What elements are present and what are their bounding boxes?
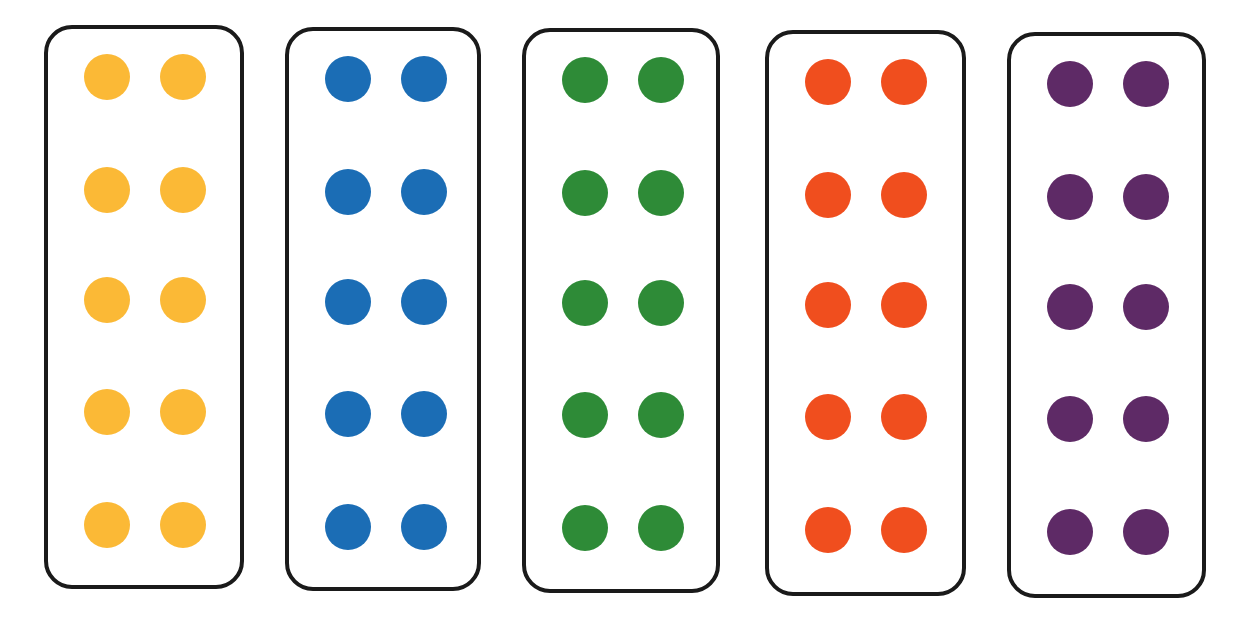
dot-green: [562, 57, 608, 103]
dot-purple: [1047, 174, 1093, 220]
dot-blue: [325, 56, 371, 102]
dot-purple: [1123, 284, 1169, 330]
dot-blue: [325, 391, 371, 437]
dot-yellow: [160, 389, 206, 435]
dot-orange: [805, 172, 851, 218]
dot-green: [638, 392, 684, 438]
dot-orange: [881, 282, 927, 328]
dot-card-purple: [1007, 32, 1206, 598]
dot-green: [562, 280, 608, 326]
dot-purple: [1047, 509, 1093, 555]
dot-orange: [881, 59, 927, 105]
dot-yellow: [160, 167, 206, 213]
dot-orange: [881, 394, 927, 440]
dot-yellow: [160, 277, 206, 323]
dot-green: [562, 392, 608, 438]
dot-purple: [1123, 396, 1169, 442]
dot-yellow: [160, 54, 206, 100]
dot-purple: [1047, 396, 1093, 442]
dot-purple: [1047, 61, 1093, 107]
dot-orange: [805, 394, 851, 440]
dot-card-yellow: [44, 25, 244, 589]
dot-yellow: [84, 502, 130, 548]
dot-blue: [325, 169, 371, 215]
dot-yellow: [84, 277, 130, 323]
dot-blue: [401, 56, 447, 102]
dot-blue: [401, 279, 447, 325]
dot-blue: [401, 391, 447, 437]
dot-purple: [1123, 61, 1169, 107]
dot-yellow: [160, 502, 206, 548]
dot-blue: [401, 504, 447, 550]
dot-yellow: [84, 167, 130, 213]
dot-blue: [401, 169, 447, 215]
dot-green: [638, 170, 684, 216]
dot-green: [562, 170, 608, 216]
dot-blue: [325, 279, 371, 325]
dot-green: [638, 505, 684, 551]
dot-yellow: [84, 389, 130, 435]
dot-card-blue: [285, 27, 481, 591]
dot-green: [638, 280, 684, 326]
dot-orange: [805, 507, 851, 553]
dot-green: [562, 505, 608, 551]
dot-purple: [1123, 509, 1169, 555]
dot-blue: [325, 504, 371, 550]
dot-orange: [881, 507, 927, 553]
dot-yellow: [84, 54, 130, 100]
dot-green: [638, 57, 684, 103]
dot-purple: [1123, 174, 1169, 220]
dot-card-orange: [765, 30, 966, 596]
dot-orange: [881, 172, 927, 218]
dot-purple: [1047, 284, 1093, 330]
dot-orange: [805, 282, 851, 328]
dot-orange: [805, 59, 851, 105]
dot-card-green: [522, 28, 720, 593]
